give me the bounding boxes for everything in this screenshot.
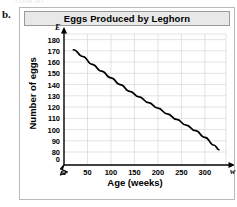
chart-data-series	[73, 50, 219, 150]
x-axis-title: Age (weeks)	[50, 177, 220, 188]
y-tick-label: 150	[38, 69, 60, 78]
y-axis-origin-label: 0	[38, 155, 60, 164]
x-tick-label: 100	[99, 168, 123, 177]
x-tick-label: 250	[169, 168, 193, 177]
chart-title: Eggs Produced by Leghorn	[64, 13, 190, 24]
y-tick-label: 120	[38, 103, 60, 112]
x-tick-label: 0	[52, 168, 76, 177]
y-tick-label: 170	[38, 47, 60, 56]
figure-container: Eggs Produced by Leghorn Number of eggs …	[19, 7, 235, 200]
x-tick-label: 150	[122, 168, 146, 177]
page-header-artifact: STEM 101	[15, 0, 44, 4]
y-tick-label: 160	[38, 58, 60, 67]
x-axis-variable-symbol: w	[230, 167, 235, 176]
figure-page: STEM 101 b. Eggs Produced by Leghorn Num…	[0, 0, 237, 207]
x-tick-label: 300	[193, 168, 217, 177]
y-tick-label: 180	[38, 36, 60, 45]
y-tick-label: 140	[38, 81, 60, 90]
x-tick-label: 50	[75, 168, 99, 177]
y-tick-label: 90	[38, 137, 60, 146]
chart-gridlines	[64, 34, 226, 164]
y-tick-label: 100	[38, 126, 60, 135]
x-tick-label: 200	[146, 168, 170, 177]
item-label-b: b.	[2, 8, 11, 20]
y-tick-label: 110	[38, 114, 60, 123]
y-axis-variable-symbol: E	[55, 23, 60, 32]
y-tick-label: 130	[38, 92, 60, 101]
chart-axes	[61, 27, 234, 168]
plot-area: Number of eggs Age (weeks) 8090100110120…	[20, 26, 234, 199]
